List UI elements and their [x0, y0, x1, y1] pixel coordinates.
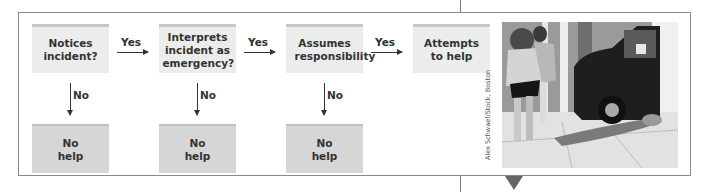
yes-arrow-icon — [244, 52, 275, 53]
no-label: No — [73, 89, 89, 101]
outcome-label: No help — [183, 137, 213, 163]
connector-line-bottom — [460, 176, 461, 192]
connector-line-top — [460, 0, 461, 12]
outcome-no-help: No help — [159, 124, 236, 173]
no-arrow-icon — [197, 83, 198, 115]
yes-arrow-icon — [117, 52, 148, 53]
down-pointer-icon — [505, 176, 523, 190]
outcome-no-help: No help — [32, 124, 109, 173]
outcome-label: No help — [310, 137, 340, 163]
outcome-no-help: No help — [286, 124, 363, 173]
bystander-photo — [502, 22, 678, 168]
yes-label: Yes — [121, 36, 141, 48]
step-label: Notices incident? — [41, 37, 101, 63]
step-label: Assumes responsibility — [295, 37, 355, 63]
yes-arrow-icon — [371, 52, 402, 53]
step-label: Interprets incident as emergency? — [163, 31, 233, 70]
yes-label: Yes — [375, 36, 395, 48]
step-assumes-responsibility: Assumes responsibility — [286, 24, 363, 73]
no-label: No — [200, 89, 216, 101]
yes-label: Yes — [248, 36, 268, 48]
photo-illustration — [502, 22, 678, 168]
no-arrow-icon — [70, 83, 71, 115]
step-label: Attempts to help — [424, 37, 479, 63]
step-attempts-to-help: Attempts to help — [413, 24, 490, 73]
no-label: No — [327, 89, 343, 101]
no-arrow-icon — [324, 83, 325, 115]
step-notices-incident: Notices incident? — [32, 24, 109, 73]
photo-credit: Alex Schwaef/Stock, Boston — [484, 70, 492, 160]
outcome-label: No help — [56, 137, 86, 163]
step-interprets-emergency: Interprets incident as emergency? — [159, 24, 236, 73]
